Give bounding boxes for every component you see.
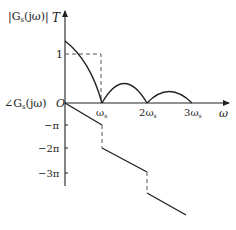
phase-segment-3 <box>147 193 186 215</box>
phase-tick-label-pi: −π <box>44 120 59 131</box>
magnitude-main-lobe <box>65 41 102 103</box>
x-tick-3ws: 3ωs <box>184 107 202 119</box>
magnitude-value-label: T <box>52 11 61 25</box>
magnitude-side-lobe-2 <box>147 92 192 104</box>
phase-axis-label: ∠Gs(jω) <box>4 97 47 111</box>
phase-tick-label-2pi: −2π <box>38 143 60 154</box>
phase-tick-label-3pi: −3π <box>38 168 60 179</box>
x-tick-ws: ωs <box>96 107 107 119</box>
origin-label: O <box>56 97 65 110</box>
frequency-response-diagram: |Gs(jω)| T 1 ∠Gs(jω) O ωs 2ωs 3ωs ω −π −… <box>0 0 236 230</box>
x-axis-label: ω <box>219 107 228 120</box>
magnitude-axis-label: |Gs(jω)| <box>8 10 49 24</box>
magnitude-side-lobe-1 <box>102 84 147 104</box>
x-tick-2ws: 2ωs <box>139 107 157 119</box>
phase-segment-2 <box>102 148 147 172</box>
magnitude-tick-one: 1 <box>56 48 63 61</box>
